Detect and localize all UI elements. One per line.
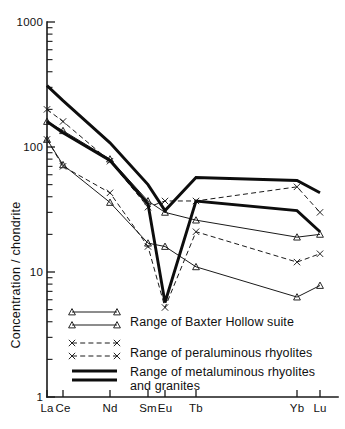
y-tick-label: 1000	[17, 16, 43, 28]
legend-label: Range of metaluminous rhyolites	[130, 365, 315, 379]
chart-canvas: 1000100101 Concentration / chondrite LaC…	[0, 0, 345, 429]
legend-label-line2: and granites	[130, 379, 200, 393]
y-tick-label: 10	[30, 266, 43, 278]
x-tick-label-yb: Yb	[290, 402, 304, 414]
x-tick-label-nd: Nd	[102, 402, 117, 414]
x-tick-label-la: La	[40, 402, 54, 414]
x-tick-label-sm: Sm	[139, 402, 157, 414]
y-tick-label: 100	[23, 141, 43, 153]
legend-label: Range of peraluminous rhyolites	[130, 346, 312, 360]
ree-spider-diagram: 1000100101 Concentration / chondrite LaC…	[0, 0, 345, 429]
x-tick-label-lu: Lu	[313, 402, 326, 414]
x-tick-label-eu: Eu	[158, 402, 172, 414]
legend-label: Range of Baxter Hollow suite	[130, 315, 294, 329]
x-tick-label-ce: Ce	[55, 402, 70, 414]
y-axis-title: Concentration / chondrite	[9, 201, 23, 348]
x-tick-label-tb: Tb	[189, 402, 203, 414]
